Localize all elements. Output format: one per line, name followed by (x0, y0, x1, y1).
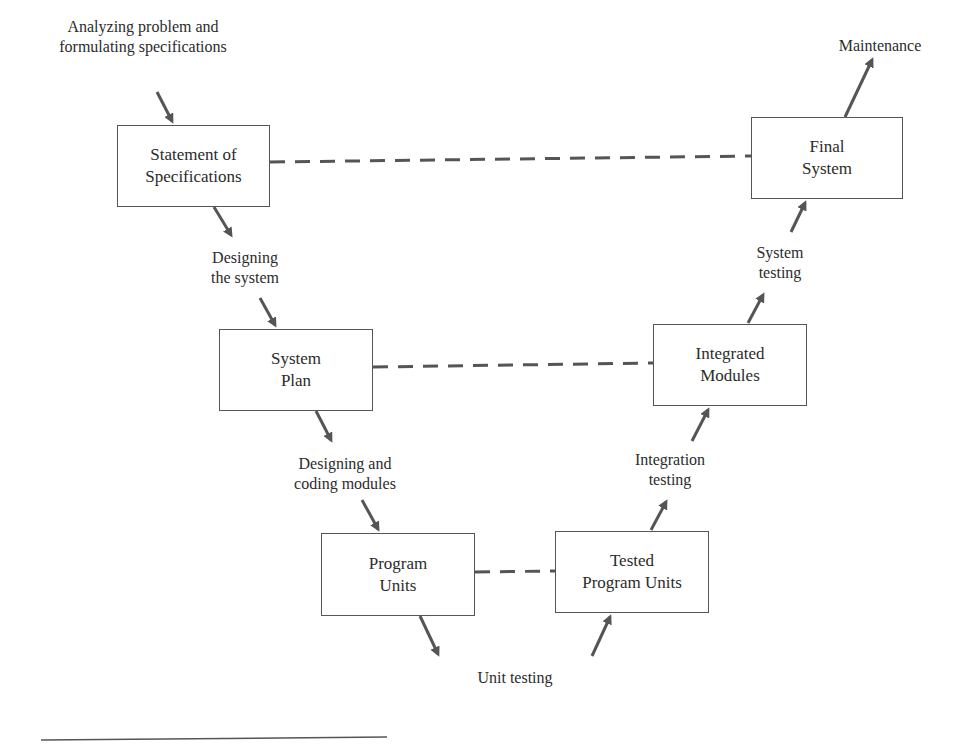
connectors-layer (0, 0, 968, 744)
label-line1: Maintenance (820, 36, 940, 56)
arrow-analyzing-to-statement (157, 92, 172, 121)
label-line2: formulating specifications (38, 37, 248, 57)
arrow-integrated-to-system-testing (748, 295, 763, 323)
arrow-final-to-maintenance (845, 60, 872, 117)
arrow-plan-to-designing-coding (316, 411, 331, 440)
arrow-system-testing-to-final (791, 203, 805, 232)
node-final-system: Final System (751, 117, 903, 199)
node-label-line1: System (271, 348, 321, 370)
node-label-line2: Specifications (145, 166, 241, 188)
label-line1: Analyzing problem and (38, 17, 248, 37)
label-line1: Integration (620, 450, 720, 470)
node-label-line1: Final (810, 136, 845, 158)
label-analyzing-problem: Analyzing problem and formulating specif… (38, 17, 248, 57)
label-system-testing: System testing (740, 243, 820, 283)
node-statement-of-specifications: Statement of Specifications (117, 125, 270, 207)
label-line2: coding modules (280, 474, 410, 494)
label-maintenance: Maintenance (820, 36, 940, 56)
label-designing-and-coding: Designing and coding modules (280, 454, 410, 494)
label-line1: Unit testing (460, 668, 570, 688)
arrow-tested-to-integration-testing (651, 502, 666, 530)
label-line1: System (740, 243, 820, 263)
arrow-designing-to-plan (260, 298, 275, 325)
label-line2: testing (740, 263, 820, 283)
label-integration-testing: Integration testing (620, 450, 720, 490)
dashed-link-plan-integrated (373, 363, 653, 367)
node-label-line2: Modules (700, 365, 760, 387)
arrow-integration-testing-to-integrated (692, 410, 708, 441)
arrow-units-to-unit-testing (420, 616, 438, 654)
label-designing-the-system: Designing the system (195, 248, 295, 288)
node-label-line2: Plan (281, 370, 311, 392)
node-label-line1: Statement of (150, 144, 236, 166)
dashed-link-units-tested (475, 571, 555, 572)
arrow-designing-coding-to-units (362, 500, 378, 529)
label-unit-testing: Unit testing (460, 668, 570, 688)
node-label-line2: Units (380, 575, 417, 597)
node-tested-program-units: Tested Program Units (555, 531, 709, 613)
label-line2: testing (620, 470, 720, 490)
node-label-line1: Program (369, 553, 428, 575)
label-line1: Designing and (280, 454, 410, 474)
node-label-line2: System (802, 158, 852, 180)
arrow-statement-to-designing (214, 207, 231, 235)
node-label-line1: Tested (610, 550, 654, 572)
label-line1: Designing (195, 248, 295, 268)
arrow-unit-testing-to-tested (592, 617, 610, 656)
dashed-link-statement-final (270, 156, 751, 162)
node-label-line1: Integrated (696, 343, 765, 365)
node-system-plan: System Plan (219, 329, 373, 411)
v-model-diagram: Statement of Specifications System Plan … (0, 0, 968, 744)
footnote-rule (41, 737, 387, 740)
label-line2: the system (195, 268, 295, 288)
node-label-line2: Program Units (582, 572, 682, 594)
node-program-units: Program Units (321, 533, 475, 616)
node-integrated-modules: Integrated Modules (653, 324, 807, 406)
